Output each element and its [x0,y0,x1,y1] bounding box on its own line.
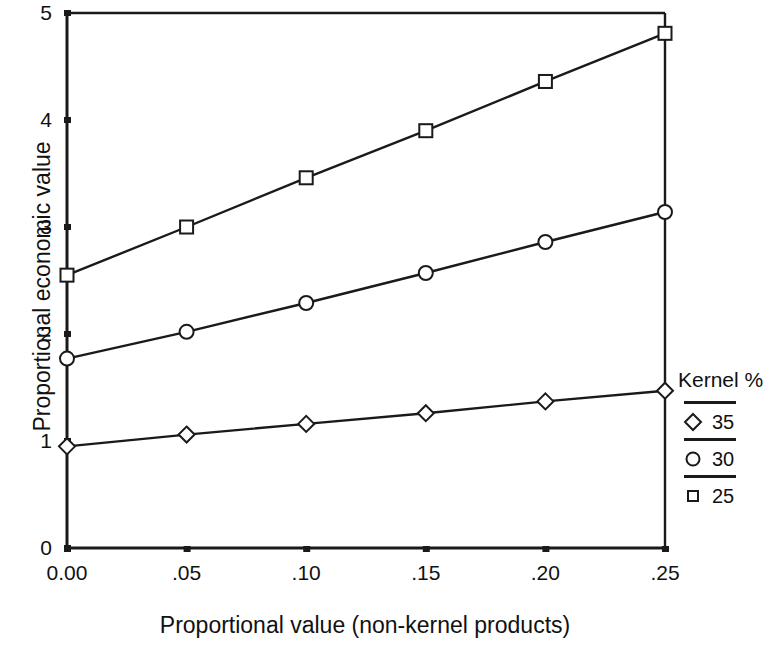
y-axis-tick-2 [64,331,71,337]
data-point-35-.25 [657,383,673,399]
y-tick-label-5: 5 [18,2,52,23]
data-point-30-.10 [299,296,313,310]
x-axis-tick-.10 [303,546,310,552]
x-tick-label-.15: .15 [381,562,471,583]
x-axis-tick-0.00 [64,546,71,552]
x-tick-label-.10: .10 [261,562,351,583]
data-point-35-.20 [537,393,553,409]
circle-marker [676,447,710,471]
y-axis-tick-4 [64,117,71,123]
data-point-30-.05 [180,325,194,339]
x-tick-label-.25: .25 [620,562,710,583]
legend-line-sample-35 [684,401,736,404]
y-tick-label-0: 0 [18,537,52,558]
series-line-25 [67,33,665,275]
legend-line-sample-30 [684,438,736,441]
diamond-marker [676,410,710,434]
legend-entry-30[interactable]: 30 [676,438,779,473]
x-tick-label-.20: .20 [500,562,590,583]
x-tick-label-.05: .05 [142,562,232,583]
legend-label-35: 35 [710,411,734,434]
series-25 [61,27,672,282]
circle-marker-glyph [687,453,700,466]
legend-label-30: 30 [710,448,734,471]
data-point-35-0.00 [59,438,75,454]
x-axis-tick-.20 [542,546,549,552]
line-chart-figure: Proportional economic value 012345 0.00.… [0,0,779,646]
y-tick-label-3: 3 [18,216,52,237]
data-point-25-0.00 [61,269,74,282]
series-30 [60,205,672,366]
diamond-marker-glyph [685,414,701,430]
legend-row-25: 25 [676,482,779,510]
y-tick-label-1: 1 [18,430,52,451]
legend-entry-35[interactable]: 35 [676,401,779,436]
data-point-25-.05 [180,221,193,234]
data-point-30-.25 [658,205,672,219]
x-axis-tick-.05 [184,546,191,552]
data-point-25-.20 [539,75,552,88]
data-point-25-.10 [300,171,313,184]
series-line-30 [67,212,665,359]
legend-title: Kernel % [676,368,779,392]
legend-line-sample-25 [684,475,736,478]
plot-area [0,0,779,646]
series-line-35 [67,391,665,447]
legend-label-25: 25 [710,485,734,508]
data-point-35-.15 [418,405,434,421]
x-tick-label-0.00: 0.00 [22,562,112,583]
data-point-25-.15 [419,124,432,137]
chart-legend: Kernel % 353025 [676,368,779,512]
data-point-30-.20 [538,235,552,249]
legend-entries: 353025 [676,401,779,510]
x-axis-tick-.25 [662,546,669,552]
y-axis-tick-5 [64,10,71,16]
legend-entry-25[interactable]: 25 [676,475,779,510]
square-marker [676,484,710,508]
square-marker-glyph [688,491,698,501]
data-point-25-.25 [659,27,672,40]
legend-row-30: 30 [676,445,779,473]
series-35 [59,383,673,455]
data-point-30-0.00 [60,352,74,366]
x-axis-title: Proportional value (non-kernel products) [60,612,670,639]
legend-row-35: 35 [676,408,779,436]
y-axis-tick-3 [64,224,71,230]
data-point-35-.05 [179,427,195,443]
data-point-30-.15 [419,266,433,280]
y-tick-label-2: 2 [18,323,52,344]
data-point-35-.10 [298,416,314,432]
y-tick-label-4: 4 [18,109,52,130]
x-axis-tick-.15 [423,546,430,552]
